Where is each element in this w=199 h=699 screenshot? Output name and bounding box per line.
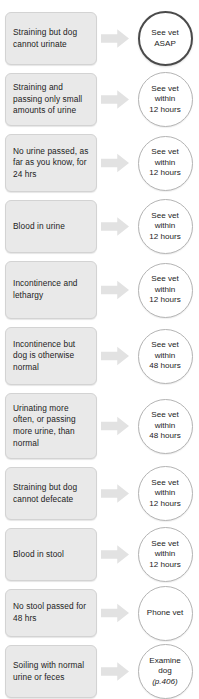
action-label: See vetwithin12 hours bbox=[146, 274, 184, 305]
action-label-line: within bbox=[149, 549, 181, 559]
symptom-box: Straining and passing only small amounts… bbox=[5, 73, 97, 126]
action-cell: See vetwithin12 hours bbox=[133, 527, 197, 582]
symptom-label: No stool passed for 48 hrs bbox=[13, 601, 89, 624]
right-arrow-icon bbox=[101, 483, 129, 504]
action-label: See vetwithin12 hours bbox=[146, 211, 184, 242]
action-cell: See vetASAP bbox=[133, 11, 197, 66]
right-arrow-icon bbox=[101, 416, 129, 437]
right-arrow-icon bbox=[101, 153, 129, 174]
symptom-box: Blood in urine bbox=[5, 200, 97, 253]
arrow-cell bbox=[97, 28, 133, 49]
action-label-line: See vet bbox=[149, 340, 181, 350]
symptom-box: No stool passed for 48 hrs bbox=[5, 589, 97, 637]
action-cell: See vetwithin12 hours bbox=[133, 263, 197, 318]
action-label-line: ASAP bbox=[151, 39, 178, 49]
flowchart-row: Incontinence but dog is otherwise normal… bbox=[0, 327, 199, 385]
action-circle: See vetwithin48 hours bbox=[138, 329, 193, 384]
right-arrow-icon bbox=[101, 346, 129, 367]
symptom-box: Soiling with normal urine or feces bbox=[5, 645, 97, 698]
symptom-label: Urinating more often, or passing more ur… bbox=[13, 403, 89, 449]
action-circle: See vetwithin12 hours bbox=[138, 263, 193, 318]
action-circle: Examinedog(p.406) bbox=[138, 644, 193, 699]
action-label: See vetwithin12 hours bbox=[146, 539, 184, 570]
action-label-line: Examine bbox=[149, 656, 181, 666]
symptom-box: Incontinence but dog is otherwise normal bbox=[5, 327, 97, 385]
action-label-line: 12 hours bbox=[149, 560, 181, 570]
flowchart-row: Urinating more often, or passing more ur… bbox=[0, 393, 199, 459]
action-label-line: See vet bbox=[149, 274, 181, 284]
action-label: See vetASAP bbox=[148, 28, 181, 49]
flowchart-row: Blood in stoolSee vetwithin12 hours bbox=[0, 528, 199, 581]
right-arrow-icon bbox=[101, 661, 129, 682]
flowchart-row: Straining and passing only small amounts… bbox=[0, 73, 199, 126]
action-cell: See vetwithin12 hours bbox=[133, 466, 197, 521]
action-label-line: within bbox=[149, 285, 181, 295]
action-cell: See vetwithin48 hours bbox=[133, 399, 197, 454]
arrow-cell bbox=[97, 483, 133, 504]
flowchart-row: Incontinence and lethargySee vetwithin12… bbox=[0, 261, 199, 319]
action-label-line: 48 hours bbox=[149, 431, 181, 441]
action-cell: Examinedog(p.406) bbox=[133, 644, 197, 699]
right-arrow-icon bbox=[101, 544, 129, 565]
arrow-cell bbox=[97, 346, 133, 367]
action-label: See vetwithin12 hours bbox=[146, 478, 184, 509]
action-cell: See vetwithin12 hours bbox=[133, 72, 197, 127]
action-cell: See vetwithin48 hours bbox=[133, 329, 197, 384]
action-label-line: within bbox=[149, 158, 181, 168]
action-circle: See vetwithin12 hours bbox=[138, 199, 193, 254]
action-label: Examinedog(p.406) bbox=[146, 656, 184, 687]
right-arrow-icon bbox=[101, 89, 129, 110]
action-label: See vetwithin48 hours bbox=[146, 340, 184, 371]
page-reference: (p.406) bbox=[149, 677, 181, 687]
symptom-label: No urine passed, as far as you know, for… bbox=[13, 146, 89, 181]
flowchart-row: Blood in urineSee vetwithin12 hours bbox=[0, 200, 199, 253]
right-arrow-icon bbox=[101, 28, 129, 49]
symptom-label: Blood in urine bbox=[13, 221, 65, 233]
arrow-cell bbox=[97, 153, 133, 174]
action-label-line: within bbox=[149, 94, 181, 104]
flowchart-row: No urine passed, as far as you know, for… bbox=[0, 134, 199, 192]
action-circle: See vetwithin12 hours bbox=[138, 136, 193, 191]
symptom-label: Incontinence and lethargy bbox=[13, 278, 89, 301]
action-circle: See vetwithin48 hours bbox=[138, 399, 193, 454]
symptom-box: Blood in stool bbox=[5, 528, 97, 581]
symptom-label: Incontinence but dog is otherwise normal bbox=[13, 339, 89, 374]
symptom-box: Incontinence and lethargy bbox=[5, 261, 97, 319]
action-label-line: 12 hours bbox=[149, 295, 181, 305]
arrow-cell bbox=[97, 603, 133, 624]
action-label-line: See vet bbox=[149, 478, 181, 488]
action-cell: Phone vet bbox=[133, 586, 197, 641]
action-label-line: Phone vet bbox=[147, 608, 183, 618]
action-label: Phone vet bbox=[144, 608, 186, 618]
action-label-line: within bbox=[149, 351, 181, 361]
flowchart-row: Soiling with normal urine or fecesExamin… bbox=[0, 645, 199, 698]
action-label-line: 12 hours bbox=[149, 105, 181, 115]
action-label: See vetwithin48 hours bbox=[146, 410, 184, 441]
action-label-line: See vet bbox=[151, 28, 178, 38]
symptom-label: Straining and passing only small amounts… bbox=[13, 82, 89, 117]
symptom-label: Straining but dog cannot defecate bbox=[13, 482, 89, 505]
symptom-label: Soiling with normal urine or feces bbox=[13, 660, 89, 683]
action-circle: See vetwithin12 hours bbox=[138, 466, 193, 521]
action-label-line: 12 hours bbox=[149, 232, 181, 242]
action-label-line: within bbox=[149, 421, 181, 431]
flowchart-row: Straining but dog cannot defecateSee vet… bbox=[0, 467, 199, 520]
action-label-line: See vet bbox=[149, 410, 181, 420]
symptom-box: Straining but dog cannot defecate bbox=[5, 467, 97, 520]
arrow-cell bbox=[97, 280, 133, 301]
symptom-box: Straining but dog cannot urinate bbox=[5, 12, 97, 65]
action-circle: See vetwithin12 hours bbox=[138, 527, 193, 582]
action-label: See vetwithin12 hours bbox=[146, 147, 184, 178]
action-label-line: See vet bbox=[149, 539, 181, 549]
action-label-line: within bbox=[149, 488, 181, 498]
arrow-cell bbox=[97, 544, 133, 565]
action-circle-urgent: See vetASAP bbox=[138, 11, 193, 66]
arrow-cell bbox=[97, 89, 133, 110]
symptom-label: Blood in stool bbox=[13, 549, 64, 561]
right-arrow-icon bbox=[101, 603, 129, 624]
action-label-line: dog bbox=[149, 666, 181, 676]
action-label: See vetwithin12 hours bbox=[146, 84, 184, 115]
flowchart-row: Straining but dog cannot urinateSee vetA… bbox=[0, 12, 199, 65]
symptom-label: Straining but dog cannot urinate bbox=[13, 27, 89, 50]
